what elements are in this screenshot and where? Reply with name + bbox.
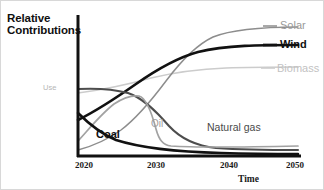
- x-tick-2020: 2020: [75, 160, 93, 170]
- x-axis-label: Time: [238, 174, 259, 184]
- y-axis-label-line1: Relative: [7, 12, 81, 24]
- series-label-coal: Coal: [96, 129, 120, 141]
- figure-container: Relative Contributions Use 2020 2030 204…: [0, 0, 324, 190]
- x-tick-2050: 2050: [286, 160, 304, 170]
- y-axis-label-line2: Contributions: [7, 24, 81, 36]
- x-tick-2030: 2030: [147, 160, 165, 170]
- legend-label-biomass: Biomass: [277, 63, 319, 75]
- series-wind: [78, 45, 298, 120]
- y-axis-secondary-label: Use: [43, 84, 56, 92]
- legend-label-wind: Wind: [280, 39, 307, 51]
- x-tick-2040: 2040: [220, 160, 238, 170]
- y-axis-label: Relative Contributions: [7, 12, 81, 37]
- series-label-oil: Oil: [151, 119, 163, 130]
- legend-swatches: [261, 26, 277, 68]
- legend-label-solar: Solar: [280, 20, 306, 32]
- series-label-natural-gas: Natural gas: [207, 122, 261, 133]
